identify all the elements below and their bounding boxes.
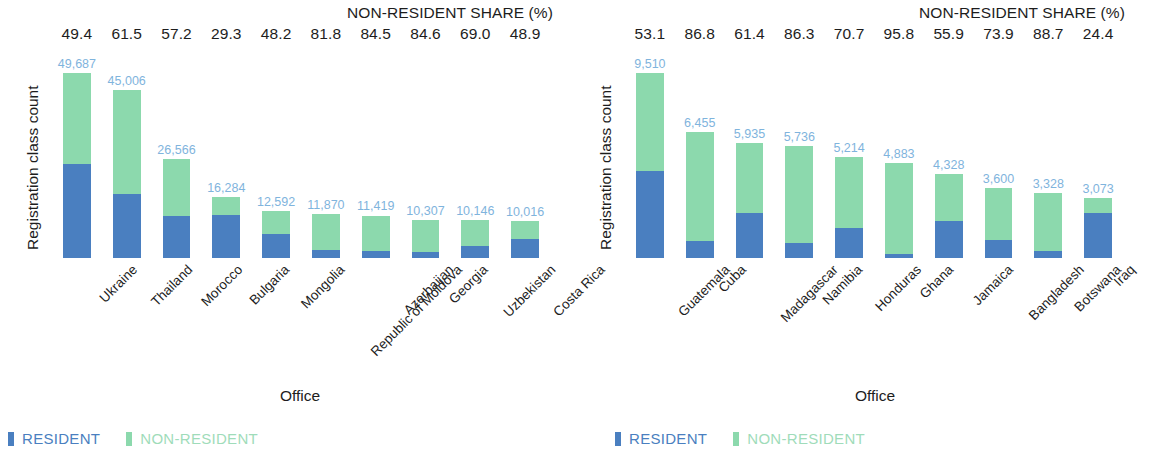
bar-value-label: 3,600 <box>983 172 1014 186</box>
stacked-bar[interactable] <box>63 73 91 258</box>
bar-group[interactable]: 45,006 <box>102 73 152 258</box>
bar-segment-resident[interactable] <box>785 243 813 258</box>
bar-group[interactable]: 12,592 <box>251 73 301 258</box>
stacked-bar[interactable] <box>461 220 489 258</box>
bar-value-label: 5,935 <box>734 127 765 141</box>
bar-group[interactable]: 5,736 <box>774 73 824 258</box>
bar-segment-resident[interactable] <box>511 239 539 258</box>
bar-segment-non-resident[interactable] <box>412 220 440 252</box>
bar-segment-non-resident[interactable] <box>1084 198 1112 213</box>
bar-segment-non-resident[interactable] <box>736 143 764 214</box>
bar-segment-resident[interactable] <box>63 164 91 258</box>
stacked-bar[interactable] <box>362 215 390 258</box>
bar-segment-non-resident[interactable] <box>212 197 240 215</box>
bar-segment-non-resident[interactable] <box>163 159 191 216</box>
stacked-bar[interactable] <box>736 143 764 258</box>
bar-group[interactable]: 11,870 <box>301 73 351 258</box>
stacked-bar[interactable] <box>935 174 963 258</box>
share-values-row-right: 53.186.861.486.370.795.855.973.988.724.4 <box>625 24 1123 44</box>
bar-group[interactable]: 9,510 <box>625 73 675 258</box>
bar-segment-resident[interactable] <box>461 246 489 258</box>
bar-group[interactable]: 4,883 <box>874 73 924 258</box>
bar-group[interactable]: 11,419 <box>351 73 401 258</box>
bar-group[interactable]: 5,935 <box>725 73 775 258</box>
stacked-bar[interactable] <box>412 220 440 258</box>
bar-value-label: 49,687 <box>58 57 96 71</box>
share-value: 84.5 <box>351 24 401 44</box>
share-value: 88.7 <box>1023 24 1073 44</box>
bar-group[interactable]: 10,146 <box>450 73 500 258</box>
share-value: 86.8 <box>675 24 725 44</box>
plot-area-left: 49,68745,00626,56616,28412,59211,87011,4… <box>52 73 550 258</box>
bar-segment-resident[interactable] <box>412 252 440 258</box>
x-tick-label: Mongolia <box>298 262 347 311</box>
bar-segment-resident[interactable] <box>636 171 664 258</box>
bar-segment-non-resident[interactable] <box>835 157 863 229</box>
bar-segment-non-resident[interactable] <box>63 73 91 164</box>
bar-segment-resident[interactable] <box>163 216 191 258</box>
bar-segment-resident[interactable] <box>1034 251 1062 258</box>
bar-segment-resident[interactable] <box>262 234 290 258</box>
stacked-bar[interactable] <box>163 159 191 258</box>
bar-group[interactable]: 6,455 <box>675 73 725 258</box>
stacked-bar[interactable] <box>1034 193 1062 258</box>
bar-segment-non-resident[interactable] <box>985 188 1013 240</box>
bar-group[interactable]: 49,687 <box>52 73 102 258</box>
bar-segment-resident[interactable] <box>835 228 863 258</box>
bar-segment-resident[interactable] <box>362 251 390 258</box>
bar-segment-non-resident[interactable] <box>362 216 390 252</box>
stacked-bar[interactable] <box>511 221 539 258</box>
share-value: 49.4 <box>52 24 102 44</box>
legend-item-resident[interactable]: RESIDENT <box>615 430 707 447</box>
x-tick-label: Bangladesh <box>1025 262 1086 323</box>
stacked-bar[interactable] <box>262 211 290 258</box>
bar-segment-non-resident[interactable] <box>1034 193 1062 250</box>
stacked-bar[interactable] <box>985 188 1013 258</box>
stacked-bar[interactable] <box>785 146 813 258</box>
stacked-bar[interactable] <box>835 157 863 258</box>
bar-value-label: 5,736 <box>784 130 815 144</box>
bar-segment-non-resident[interactable] <box>636 73 664 171</box>
stacked-bar[interactable] <box>1084 198 1112 258</box>
bar-segment-non-resident[interactable] <box>885 163 913 254</box>
bar-segment-non-resident[interactable] <box>262 211 290 234</box>
stacked-bar[interactable] <box>113 90 141 258</box>
bar-segment-resident[interactable] <box>1084 213 1112 258</box>
bar-segment-non-resident[interactable] <box>935 174 963 221</box>
bar-group[interactable]: 10,016 <box>500 73 550 258</box>
bar-segment-non-resident[interactable] <box>312 214 340 250</box>
bar-group[interactable]: 4,328 <box>924 73 974 258</box>
x-tick-label: Ghana <box>917 262 956 301</box>
bar-value-label: 3,328 <box>1033 177 1064 191</box>
bar-group[interactable]: 3,328 <box>1023 73 1073 258</box>
bar-segment-resident[interactable] <box>985 240 1013 258</box>
bar-group[interactable]: 10,307 <box>401 73 451 258</box>
bar-segment-non-resident[interactable] <box>461 220 489 246</box>
bar-group[interactable]: 16,284 <box>201 73 251 258</box>
stacked-bar[interactable] <box>885 163 913 258</box>
bar-segment-non-resident[interactable] <box>511 221 539 239</box>
share-value: 81.8 <box>301 24 351 44</box>
bar-segment-resident[interactable] <box>736 213 764 258</box>
bar-segment-non-resident[interactable] <box>785 146 813 242</box>
bar-group[interactable]: 3,073 <box>1073 73 1123 258</box>
bar-segment-resident[interactable] <box>935 221 963 258</box>
bar-segment-resident[interactable] <box>113 194 141 259</box>
bar-segment-resident[interactable] <box>885 254 913 258</box>
stacked-bar[interactable] <box>312 214 340 258</box>
legend-swatch-non-resident-icon <box>126 432 132 446</box>
legend-item-non-resident[interactable]: NON-RESIDENT <box>733 430 865 447</box>
legend-item-non-resident[interactable]: NON-RESIDENT <box>126 430 258 447</box>
stacked-bar[interactable] <box>212 197 240 258</box>
bar-group[interactable]: 26,566 <box>152 73 202 258</box>
bar-segment-resident[interactable] <box>686 241 714 258</box>
stacked-bar[interactable] <box>636 73 664 258</box>
stacked-bar[interactable] <box>686 132 714 258</box>
bar-segment-non-resident[interactable] <box>113 90 141 193</box>
legend-item-resident[interactable]: RESIDENT <box>8 430 100 447</box>
bar-group[interactable]: 5,214 <box>824 73 874 258</box>
bar-segment-resident[interactable] <box>212 215 240 258</box>
bar-segment-resident[interactable] <box>312 250 340 258</box>
bar-group[interactable]: 3,600 <box>974 73 1024 258</box>
bar-segment-non-resident[interactable] <box>686 132 714 241</box>
